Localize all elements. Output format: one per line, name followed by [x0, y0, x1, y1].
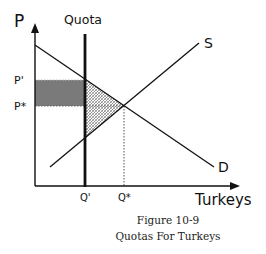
figure-number: Figure 10-9: [137, 214, 199, 226]
p-star-label: P*: [14, 100, 27, 113]
demand-label: D: [218, 159, 229, 175]
quota-rent-area: [35, 80, 85, 106]
y-axis-arrow-icon: [31, 23, 39, 33]
q-prime-label: Q': [80, 192, 91, 203]
deadweight-loss-area: [85, 80, 124, 138]
quota-diagram: P Quota S D P' P* Q' Q* Turkeys Figure 1…: [0, 0, 266, 254]
p-prime-label: P': [14, 74, 24, 87]
y-axis-label: P: [14, 11, 24, 31]
supply-label: S: [204, 35, 213, 51]
x-axis-arrow-icon: [230, 182, 240, 190]
x-axis-label: Turkeys: [194, 191, 252, 209]
quota-label: Quota: [64, 12, 102, 27]
q-star-label: Q*: [118, 192, 131, 203]
figure-title: Quotas For Turkeys: [116, 230, 221, 242]
